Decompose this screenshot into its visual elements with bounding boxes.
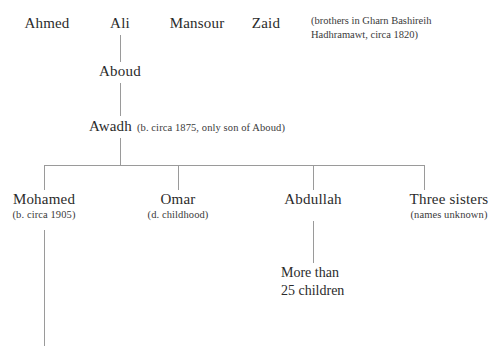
person-note: (names unknown) bbox=[410, 209, 489, 221]
person-name: Zaid bbox=[252, 15, 280, 31]
person-three-sisters: Three sisters (names unknown) bbox=[410, 191, 489, 221]
connector-bar-to-abdullah bbox=[313, 165, 314, 190]
connector-ali-to-aboud bbox=[120, 35, 121, 62]
person-note: (b. circa 1905) bbox=[12, 209, 75, 221]
connector-bar-to-omar bbox=[178, 165, 179, 190]
person-name: Mansour bbox=[170, 15, 225, 31]
person-name: Mohamed bbox=[12, 191, 75, 208]
person-awadh: Awadh(b. circa 1875, only son of Aboud) bbox=[89, 117, 285, 135]
person-name: Aboud bbox=[99, 63, 141, 79]
brothers-annotation: (brothers in Gharn Bashireih Hadhramawt,… bbox=[311, 14, 431, 41]
sibling-connector-bar bbox=[44, 165, 425, 166]
connector-aboud-to-awadh bbox=[120, 83, 121, 116]
connector-awadh-to-children-bar bbox=[120, 138, 121, 165]
person-name: Three sisters bbox=[410, 191, 489, 208]
connector-bar-to-mohamed bbox=[44, 165, 45, 190]
person-note: (b. circa 1875, only son of Aboud) bbox=[137, 122, 285, 133]
person-name: Abdullah bbox=[284, 191, 341, 208]
person-name: Omar bbox=[148, 191, 209, 208]
person-mohamed: Mohamed (b. circa 1905) bbox=[12, 191, 75, 221]
person-name: Ahmed bbox=[24, 15, 69, 31]
connector-abdullah-to-descendants bbox=[313, 221, 314, 263]
connector-bar-to-three-sisters bbox=[424, 165, 425, 190]
person-omar: Omar (d. childhood) bbox=[148, 191, 209, 221]
person-ali: Ali bbox=[110, 14, 130, 32]
family-tree-diagram: Ahmed Ali Mansour Zaid (brothers in Ghar… bbox=[0, 0, 499, 346]
person-aboud: Aboud bbox=[99, 62, 141, 80]
person-mansour: Mansour bbox=[170, 14, 225, 32]
connector-mohamed-to-descendants bbox=[44, 230, 45, 346]
abdullah-descendants-label: More than 25 children bbox=[281, 264, 344, 300]
person-name: Awadh bbox=[89, 118, 132, 134]
person-abdullah: Abdullah bbox=[284, 191, 341, 208]
person-ahmed: Ahmed bbox=[24, 14, 69, 32]
person-zaid: Zaid bbox=[252, 14, 280, 32]
person-name: Ali bbox=[110, 15, 130, 31]
person-note: (d. childhood) bbox=[148, 209, 209, 221]
